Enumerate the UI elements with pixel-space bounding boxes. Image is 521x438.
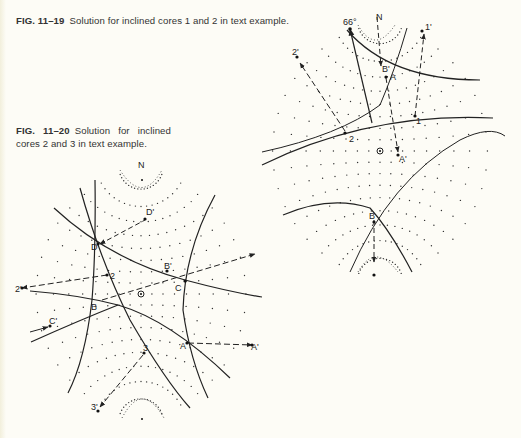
label-north: N xyxy=(376,12,383,22)
label-2-prime: 2' xyxy=(292,47,299,57)
2-to-2-prime-path xyxy=(22,275,107,288)
cone-curve-left xyxy=(68,180,95,393)
figure-11-19-stereonet: 66° N 1' 2' B' A 1 2 A' B xyxy=(262,12,505,277)
label-A: A xyxy=(180,341,186,351)
1-to-1-prime-path xyxy=(415,34,424,116)
label-C-prime: C' xyxy=(49,316,57,326)
label-2: 2 xyxy=(349,134,354,144)
label-2: 2 xyxy=(110,271,115,281)
label-2-prime: 2' xyxy=(15,284,22,294)
label-A-prime: A' xyxy=(251,342,259,352)
cone-curve-right xyxy=(183,195,215,398)
label-B-prime: B' xyxy=(164,261,172,271)
figures-canvas: 66° N 1' 2' B' A 1 2 A' B xyxy=(0,0,521,438)
south-small-circle xyxy=(358,257,398,272)
south-small-circle xyxy=(122,399,164,418)
great-circle-1 xyxy=(262,28,407,152)
label-C: C xyxy=(175,283,182,293)
label-1-prime: 1' xyxy=(425,22,432,32)
great-circle-C-prime xyxy=(31,305,118,342)
label-1: 1 xyxy=(416,116,421,126)
label-angle: 66° xyxy=(343,17,357,27)
label-A: A xyxy=(390,72,396,82)
A-to-A-prime-path xyxy=(386,78,398,152)
cone-curve-a xyxy=(347,30,480,80)
north-to-B-path xyxy=(377,17,381,66)
label-D-prime: D' xyxy=(146,207,154,217)
label-B: B xyxy=(369,211,375,221)
rotation-66-line xyxy=(350,29,372,123)
great-circle-2 xyxy=(350,131,505,272)
2-to-2-prime-path xyxy=(300,63,345,131)
to-C-prime-arrow xyxy=(30,327,48,332)
3-to-3-prime-path xyxy=(100,355,143,407)
north-small-circle xyxy=(358,25,395,40)
label-B: B xyxy=(91,302,97,312)
north-small-circle xyxy=(120,170,162,188)
label-3: 3 xyxy=(143,343,148,353)
cone-curve-D-3 xyxy=(80,188,190,408)
label-3-prime: 3' xyxy=(91,402,98,412)
D-to-D-prime-path xyxy=(100,220,145,244)
label-north: N xyxy=(138,160,145,170)
B-through-B-prime-path xyxy=(102,254,255,300)
label-B-prime: B' xyxy=(382,64,390,74)
label-D: D xyxy=(91,242,98,252)
label-A-prime: A' xyxy=(399,154,407,164)
figure-11-20-stereonet: N D' D 2 2' B' C B C' A A' 3 3' xyxy=(15,160,262,420)
great-circle-B-A xyxy=(30,291,230,378)
A-to-A-prime-path xyxy=(188,343,252,345)
